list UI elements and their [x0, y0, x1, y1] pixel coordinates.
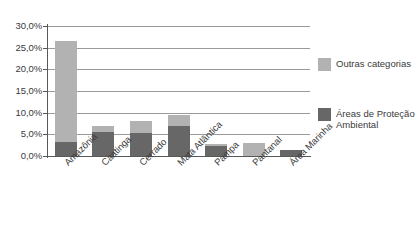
legend-swatch-icon [318, 58, 331, 71]
bar-group[interactable] [280, 26, 302, 156]
legend-swatch-icon [318, 108, 331, 121]
legend-item[interactable]: Outras categorias [318, 58, 416, 71]
legend-item[interactable]: Áreas de Proteção Ambiental [318, 108, 416, 130]
y-axis-tick-label: 5,0% [0, 129, 42, 139]
y-axis-tick-label: 10,0% [0, 108, 42, 118]
bar-segment-outras[interactable] [55, 41, 77, 142]
y-axis-tick-label: 15,0% [0, 86, 42, 96]
bar-segment-outras[interactable] [130, 121, 152, 132]
bar-segment-outras[interactable] [168, 115, 190, 126]
y-axis-line [47, 24, 48, 158]
legend-label: Outras categorias [336, 58, 416, 69]
legend-label: Áreas de Proteção Ambiental [336, 108, 416, 130]
y-axis-tick-label: 25,0% [0, 43, 42, 53]
y-axis-tick-label: 0,0% [0, 151, 42, 161]
y-axis-tick-label: 30,0% [0, 21, 42, 31]
bar-group[interactable] [130, 26, 152, 156]
chart-container: 0,0%5,0%10,0%15,0%20,0%25,0%30,0% Amazôn… [0, 0, 418, 239]
bar-group[interactable] [243, 26, 265, 156]
bar-segment-outras[interactable] [92, 126, 114, 132]
bar-segment-outras[interactable] [205, 144, 227, 146]
y-axis-tick-label: 20,0% [0, 64, 42, 74]
bar-group[interactable] [168, 26, 190, 156]
bar-group[interactable] [55, 26, 77, 156]
